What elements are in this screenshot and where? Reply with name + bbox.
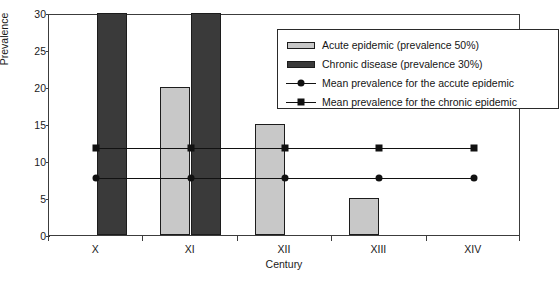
mean-marker-chronic-XIV <box>470 145 477 152</box>
y-tick-label: 5 <box>24 193 46 205</box>
x-tick-label-XIII: XIII <box>371 243 387 255</box>
bar-chronic-XI <box>191 13 221 235</box>
chart-legend: Acute epidemic (prevalence 50%)Chronic d… <box>277 29 559 109</box>
y-tick-label: 0 <box>24 230 46 242</box>
legend-item-3: Mean prevalence for the accute epidemic <box>286 74 550 92</box>
x-tick-mark <box>142 236 143 241</box>
mean-marker-acute-XI <box>187 174 194 181</box>
mean-marker-acute-X <box>93 174 100 181</box>
x-tick-mark <box>331 236 332 241</box>
plot-area: Acute epidemic (prevalence 50%)Chronic d… <box>48 14 520 236</box>
legend-label: Acute epidemic (prevalence 50%) <box>322 39 479 51</box>
y-tick-label: 15 <box>24 119 46 131</box>
x-tick-label-XI: XI <box>185 243 195 255</box>
legend-label: Mean prevalence for the accute epidemic <box>322 77 514 89</box>
y-tick-label: 20 <box>24 82 46 94</box>
y-axis-ticks: 051015202530 <box>20 14 46 236</box>
mean-marker-acute-XIII <box>376 174 383 181</box>
mean-marker-chronic-XI <box>187 145 194 152</box>
x-tick-mark <box>237 236 238 241</box>
legend-item-2: Chronic disease (prevalence 30%) <box>286 55 550 73</box>
mean-marker-chronic-XIII <box>376 145 383 152</box>
legend-circle-marker-icon <box>298 79 305 86</box>
legend-swatch <box>286 36 316 54</box>
legend-swatch <box>286 74 316 92</box>
x-tick-label-X: X <box>92 243 99 255</box>
mean-marker-acute-XIV <box>470 174 477 181</box>
mean-marker-chronic-X <box>93 145 100 152</box>
x-tick-label-XII: XII <box>278 243 291 255</box>
bar-acute-XIII <box>349 198 379 235</box>
legend-item-1: Acute epidemic (prevalence 50%) <box>286 36 550 54</box>
y-tick-label: 10 <box>24 156 46 168</box>
bar-acute-XI <box>160 87 190 235</box>
mean-marker-acute-XII <box>282 174 289 181</box>
x-tick-mark <box>48 236 49 241</box>
x-axis-title: Century <box>48 258 520 270</box>
mean-marker-chronic-XII <box>282 145 289 152</box>
legend-swatch <box>286 98 316 107</box>
legend-label: Mean prevalence for the chronic epidemic <box>322 96 517 108</box>
legend-swatch <box>286 79 316 88</box>
legend-swatch <box>286 93 316 111</box>
y-tick-label: 25 <box>24 45 46 57</box>
legend-label: Chronic disease (prevalence 30%) <box>322 58 483 70</box>
legend-item-4: Mean prevalence for the chronic epidemic <box>286 93 550 111</box>
legend-swatch <box>286 55 316 73</box>
legend-swatch-acute-bar-icon <box>287 42 315 49</box>
y-axis-title: Prevalence <box>0 0 10 94</box>
x-tick-label-XIV: XIV <box>464 243 481 255</box>
x-axis-ticks: XXIXIIXIIIXIV <box>48 236 520 256</box>
bar-acute-XII <box>255 124 285 235</box>
y-tick-label: 30 <box>24 8 46 20</box>
x-tick-mark <box>426 236 427 241</box>
bar-chronic-X <box>97 13 127 235</box>
x-tick-mark <box>519 236 520 241</box>
legend-swatch-chronic-bar-icon <box>287 61 315 68</box>
legend-square-marker-icon <box>298 98 305 105</box>
